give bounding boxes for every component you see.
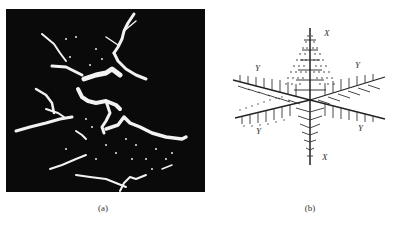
label-y-upper-right: Y — [355, 60, 361, 70]
dendrite-schematic: X X Y Y Y Y — [225, 20, 393, 175]
label-x-top: X — [323, 28, 330, 38]
label-y-lower-right: Y — [358, 123, 364, 133]
caption-b: (b) — [295, 203, 325, 213]
dendrite-image — [6, 9, 205, 192]
label-y-upper-left: Y — [255, 63, 261, 73]
label-x-bottom: X — [321, 152, 328, 162]
label-y-lower-left: Y — [256, 126, 262, 136]
dendrite-micrograph — [6, 9, 205, 192]
caption-a: (a) — [88, 203, 118, 213]
dendrite-model-diagram: X X Y Y Y Y — [225, 20, 393, 175]
